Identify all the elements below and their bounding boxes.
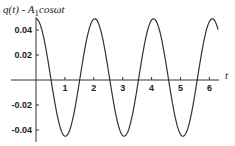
y-tick-label: 0.04	[14, 25, 32, 35]
series-line	[36, 19, 218, 137]
x-tick-label: 1	[62, 83, 67, 93]
x-tick-label: 3	[120, 83, 125, 93]
x-tick-label: 5	[178, 83, 183, 93]
y-tick-label: -0.04	[11, 125, 32, 135]
chart: q(t) - A1cosωt 0.040.02-0.02-0.04 123456…	[0, 0, 235, 146]
chart-title: q(t) - A1cosωt	[3, 3, 66, 18]
title-rest: cosωt	[39, 3, 65, 15]
x-tick-label: 6	[207, 83, 212, 93]
y-tick-label: 0.02	[14, 50, 32, 60]
title-main: q(t) - A	[3, 3, 35, 16]
y-tick-label: -0.02	[11, 100, 32, 110]
axes	[11, 17, 219, 142]
x-tick-label: 2	[91, 83, 96, 93]
x-tick-label: 4	[149, 83, 154, 93]
x-axis-label: t	[225, 69, 229, 81]
